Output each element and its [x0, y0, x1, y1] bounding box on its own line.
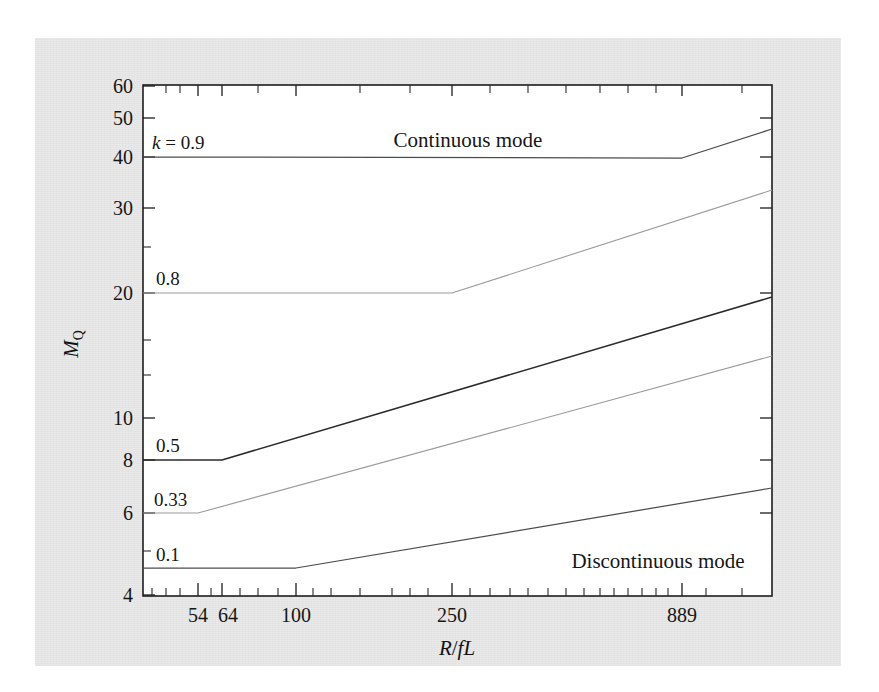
- x-tick-label: 54: [188, 604, 208, 626]
- x-tick-label: 250: [437, 604, 467, 626]
- curve-label-k-0-1: 0.1: [156, 544, 180, 565]
- x-axis-title: R/fL: [438, 636, 475, 660]
- y-tick-label: 50: [113, 107, 133, 129]
- y-axis-title-m: M: [59, 339, 83, 359]
- x-axis-title-r: R: [438, 636, 452, 660]
- y-tick-label: 8: [123, 449, 133, 471]
- y-tick-label: 4: [123, 584, 133, 606]
- y-tick-label: 20: [113, 282, 133, 304]
- y-tick-labels: 60 50 40 30 20 10 8 6 4: [113, 75, 133, 606]
- chart-figure: 60 50 40 30 20 10 8 6 4: [0, 0, 879, 692]
- x-tick-label: 64: [218, 604, 238, 626]
- y-tick-label: 10: [113, 407, 133, 429]
- x-tick-label: 889: [667, 604, 697, 626]
- figure-page: 60 50 40 30 20 10 8 6 4: [0, 0, 879, 692]
- curve-label-k-0-9: k = 0.9: [152, 132, 204, 153]
- x-axis-title-l: L: [462, 636, 475, 660]
- curve-label-k-0-8: 0.8: [156, 268, 180, 289]
- x-tick-label: 100: [281, 604, 311, 626]
- discontinuous-mode-label: Discontinuous mode: [571, 549, 744, 573]
- y-axis-title: MQ: [59, 330, 86, 359]
- continuous-mode-label: Continuous mode: [394, 128, 543, 152]
- curve-label-value: 0.9: [181, 132, 205, 153]
- curve-label-k-0-33: 0.33: [154, 489, 187, 510]
- y-tick-label: 30: [113, 197, 133, 219]
- y-tick-label: 6: [123, 502, 133, 524]
- plot-area-background: [143, 85, 772, 596]
- y-axis-title-q: Q: [71, 330, 86, 340]
- x-tick-labels: 54 64 100 250 889: [188, 604, 697, 626]
- y-tick-label: 40: [113, 146, 133, 168]
- y-tick-label: 60: [113, 75, 133, 97]
- curve-label-k-0-5: 0.5: [156, 435, 180, 456]
